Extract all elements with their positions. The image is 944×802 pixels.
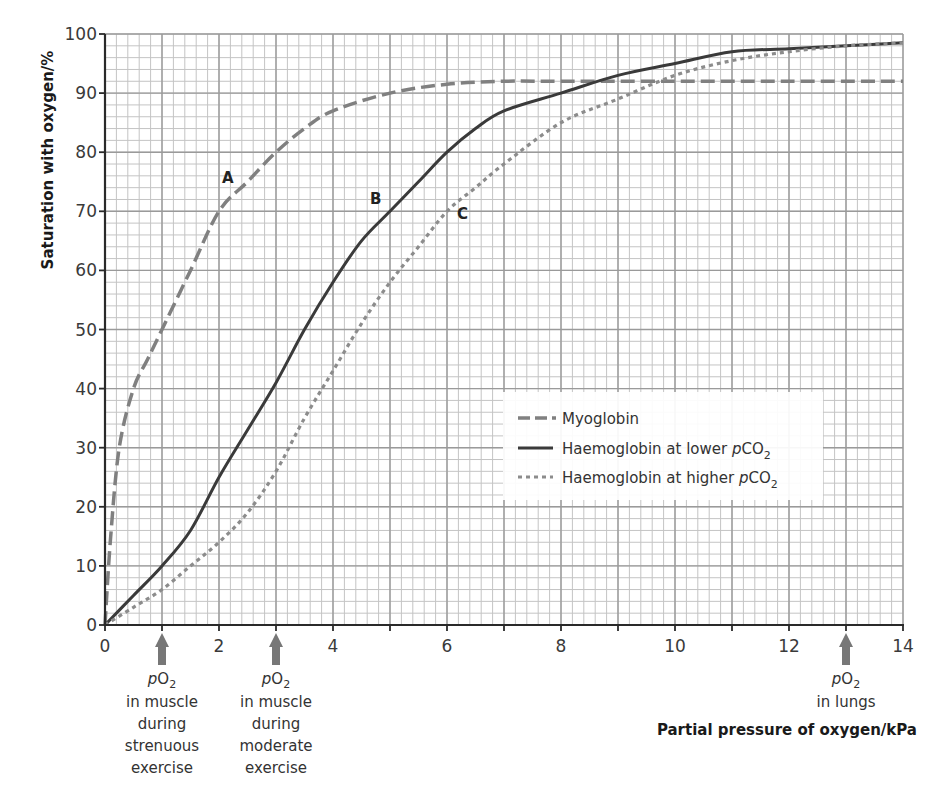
y-tick-label: 0: [86, 615, 97, 635]
annotation-line: in muscle: [240, 693, 312, 711]
grid-major: [105, 34, 903, 625]
annotation-line: exercise: [245, 759, 307, 777]
y-tick-label: 10: [75, 556, 97, 576]
y-tick-label: 20: [75, 497, 97, 517]
annotation-po2-label: pO2: [147, 670, 176, 691]
annotation-moderate: pO2 in muscle during moderate exercise: [239, 633, 312, 777]
annotation-po2-label: pO2: [261, 670, 290, 691]
x-tick-label: 12: [778, 636, 800, 656]
up-arrow-icon: [839, 633, 853, 665]
y-axis-title: Saturation with oxygen/%: [39, 51, 57, 270]
annotation-line: in muscle: [126, 693, 198, 711]
y-tick-label: 30: [75, 438, 97, 458]
y-tick-label: 80: [75, 142, 97, 162]
x-tick-label: 14: [892, 636, 914, 656]
annotation-line: during: [138, 715, 186, 733]
annotation-line: in lungs: [817, 693, 876, 711]
x-tick-label: 10: [664, 636, 686, 656]
up-arrow-icon: [155, 633, 169, 665]
legend-label-myoglobin: Myoglobin: [562, 410, 639, 428]
annotation-line: during: [252, 715, 300, 733]
up-arrow-icon: [269, 633, 283, 665]
annotation-po2-label: pO2: [831, 670, 860, 691]
x-tick-label: 0: [100, 636, 111, 656]
curve-label-b: B: [370, 190, 381, 208]
y-tick-label: 40: [75, 379, 97, 399]
y-tick-label: 60: [75, 260, 97, 280]
curve-label-c: C: [457, 205, 468, 223]
annotation-strenuous: pO2 in muscle during strenuous exercise: [125, 633, 199, 777]
annotation-line: moderate: [239, 737, 312, 755]
annotation-lungs: pO2 in lungs: [817, 633, 876, 711]
legend: Myoglobin Haemoglobin at lower pCO2 Haem…: [503, 392, 823, 500]
x-tick-label: 6: [442, 636, 453, 656]
y-axis-ticks: 0102030405060708090100: [65, 24, 105, 635]
x-axis-title: Partial pressure of oxygen/kPa: [657, 721, 917, 739]
oxygen-dissociation-chart: Myoglobin Haemoglobin at lower pCO2 Haem…: [0, 0, 944, 802]
x-axis-ticks: 02468101214: [100, 625, 914, 656]
x-tick-label: 8: [556, 636, 567, 656]
x-tick-label: 4: [328, 636, 339, 656]
annotation-line: exercise: [131, 759, 193, 777]
x-tick-label: 2: [214, 636, 225, 656]
y-tick-label: 70: [75, 201, 97, 221]
annotation-line: strenuous: [125, 737, 199, 755]
y-tick-label: 100: [65, 24, 97, 44]
y-tick-label: 50: [75, 320, 97, 340]
y-tick-label: 90: [75, 83, 97, 103]
curve-label-a: A: [222, 169, 234, 187]
